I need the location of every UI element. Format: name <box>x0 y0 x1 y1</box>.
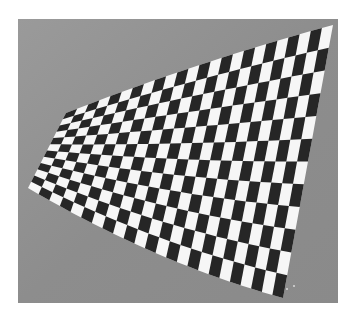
distorted-checkerboard-image <box>0 0 352 319</box>
noise-speck <box>293 285 295 287</box>
noise-speck <box>286 288 288 290</box>
